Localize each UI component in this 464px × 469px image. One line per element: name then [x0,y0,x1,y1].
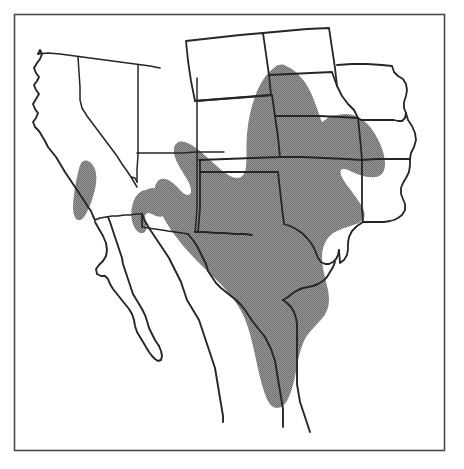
range-map-figure: Shaded distribution area covering the Gr… [0,0,464,469]
boundary-missouri-west [362,160,363,222]
map-canvas [0,0,464,469]
